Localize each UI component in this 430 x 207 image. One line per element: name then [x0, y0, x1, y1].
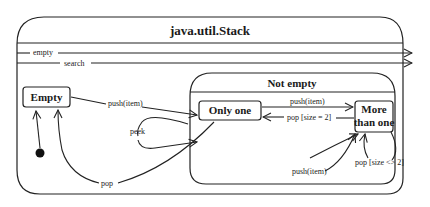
transition-label-search: search — [64, 59, 84, 68]
state-label-more-line2: than one — [354, 116, 395, 128]
transition-label-pop-size-not-2: pop [size <> 2] — [355, 158, 404, 167]
state-label-empty: Empty — [31, 91, 63, 103]
transition-label-push-2: push(item) — [290, 97, 325, 106]
transition-label-pop-size-2: pop [size = 2] — [287, 113, 332, 122]
initial-state-dot — [36, 149, 45, 158]
composite-state-title: Not empty — [267, 77, 317, 89]
transition-label-empty: empty — [33, 48, 53, 57]
state-more-than-one: More than one — [354, 101, 395, 132]
transition-label-peek: peek — [130, 127, 145, 136]
state-label-only-one: Only one — [209, 104, 252, 116]
state-only-one: Only one — [199, 101, 261, 120]
state-diagram: java.util.Stack empty search Not empty E… — [0, 0, 430, 207]
transition-label-push-3: push(item) — [292, 167, 327, 176]
transition-label-pop: pop — [101, 179, 113, 188]
state-label-more-line1: More — [361, 103, 387, 115]
transition-label-push-1: push(item) — [108, 99, 143, 108]
outer-state-title: java.util.Stack — [169, 23, 251, 38]
state-empty: Empty — [23, 87, 70, 107]
